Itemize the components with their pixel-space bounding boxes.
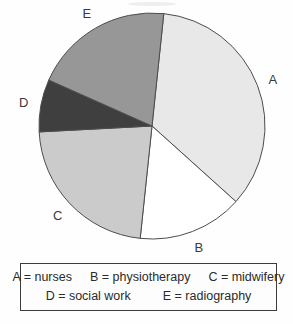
legend-row-2: D = social workE = radiography [21,287,276,306]
legend-entry: A = nurses [13,268,72,287]
legend-entry: E = radiography [163,287,252,306]
legend-box: A = nursesB = physiotherapyC = midwifery… [20,263,277,311]
slice-label-B: B [194,240,203,255]
legend-entry: D = social work [46,287,131,306]
pie-chart-figure: ABCDE A = nursesB = physiotherapyC = mid… [0,0,293,324]
slice-label-C: C [53,208,63,223]
legend-row-1: A = nursesB = physiotherapyC = midwifery [21,268,276,287]
legend-entry: B = physiotherapy [90,268,190,287]
legend-rows: A = nursesB = physiotherapyC = midwifery… [21,268,276,306]
slice-label-A: A [268,72,277,87]
pie-chart [0,0,293,262]
legend-entry: C = midwifery [208,268,284,287]
slice-label-D: D [19,95,29,110]
slice-label-E: E [82,6,91,21]
